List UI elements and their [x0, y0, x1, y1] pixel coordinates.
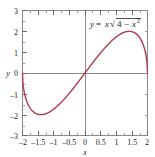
function-plot: 3 2 1 0 –1 –2 –3 –2 –1.5 –1 –0.5 0 0.5 1…: [0, 0, 155, 157]
radical-sign-icon: √: [110, 19, 115, 29]
x-tick-label-0: 0: [83, 138, 87, 147]
radicand-x: x: [131, 19, 136, 29]
x-tick-label-0p5: 0.5: [96, 138, 106, 147]
x-tick-label-2: 2: [145, 138, 149, 147]
equation-lhs: y: [89, 19, 94, 29]
x-tick-label-neg2: –2: [18, 138, 27, 147]
x-tick-label-neg1: –1: [49, 138, 58, 147]
equation-coefficient: x: [104, 19, 109, 29]
chart-figure: 3 2 1 0 –1 –2 –3 –2 –1.5 –1 –0.5 0 0.5 1…: [0, 0, 155, 157]
radicand-minus: −: [124, 19, 129, 29]
x-tick-label-neg1p5: –1.5: [30, 138, 45, 147]
y-tick-label-neg3: –3: [9, 132, 18, 141]
radicand-exponent: 2: [137, 18, 140, 24]
y-axis-label: y: [5, 69, 10, 78]
x-tick-label-1: 1: [115, 138, 119, 147]
y-tick-label-2: 2: [14, 28, 18, 37]
y-tick-label-1: 1: [14, 49, 18, 58]
radicand-four: 4: [117, 19, 122, 29]
x-tick-label-1p5: 1.5: [127, 138, 137, 147]
x-axis-label: x: [82, 148, 87, 157]
y-tick-label-neg1: –1: [9, 91, 18, 100]
y-tick-label-neg2: –2: [9, 112, 18, 121]
x-tick-label-neg0p5: –0.5: [61, 138, 76, 147]
y-tick-label-3: 3: [14, 7, 18, 16]
y-tick-label-0: 0: [14, 69, 18, 78]
equation-equals: =: [96, 19, 101, 29]
